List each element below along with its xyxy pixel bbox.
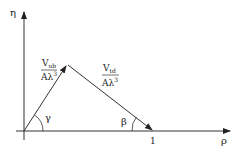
beta-label: β xyxy=(121,116,127,127)
svg-text:Vub: Vub xyxy=(41,58,56,69)
svg-text:Vtd: Vtd xyxy=(102,63,116,74)
rho-label: ρ xyxy=(221,135,227,146)
eta-label: η xyxy=(10,7,16,18)
svg-text:Aλ3: Aλ3 xyxy=(40,70,57,82)
svg-text:Aλ3: Aλ3 xyxy=(101,76,118,88)
vub-fraction: Vub Aλ3 xyxy=(40,58,57,82)
beta-arc xyxy=(132,117,137,131)
gamma-arc xyxy=(35,115,44,131)
vtd-fraction: Vtd Aλ3 xyxy=(101,63,119,88)
gamma-label: γ xyxy=(45,112,51,123)
unitarity-triangle-diagram: η ρ 1 γ β Vub Aλ3 Vtd Aλ3 xyxy=(0,0,240,152)
tick-one-label: 1 xyxy=(150,136,156,146)
